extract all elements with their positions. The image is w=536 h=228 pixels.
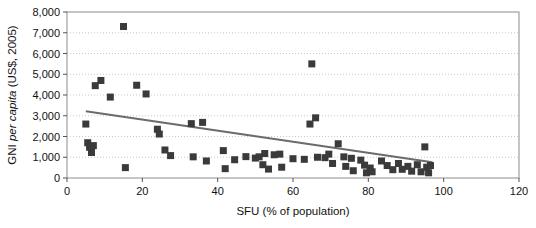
data-point xyxy=(156,131,163,138)
y-axis-ticks xyxy=(63,12,67,178)
data-point xyxy=(308,60,315,67)
x-axis-ticks xyxy=(67,178,519,182)
data-point xyxy=(133,82,140,89)
data-point xyxy=(88,149,95,156)
x-tick-label: 0 xyxy=(64,185,70,197)
y-tick-label: 1,000 xyxy=(32,151,60,163)
data-point xyxy=(312,114,319,121)
data-point xyxy=(122,164,129,171)
data-point xyxy=(220,147,227,154)
data-point xyxy=(414,161,421,168)
data-point xyxy=(199,119,206,126)
data-point xyxy=(90,142,97,149)
x-tick-label: 100 xyxy=(434,185,452,197)
data-point xyxy=(421,143,428,150)
scatter-chart-figure: 01,0002,0003,0004,0005,0006,0007,0008,00… xyxy=(0,0,536,228)
data-point xyxy=(222,165,229,172)
data-point xyxy=(82,121,89,128)
chart-canvas: 01,0002,0003,0004,0005,0006,0007,0008,00… xyxy=(0,0,536,228)
y-tick-label: 3,000 xyxy=(32,110,60,122)
data-point xyxy=(335,140,342,147)
data-point xyxy=(306,121,313,128)
data-point xyxy=(261,150,268,157)
y-tick-label: 6,000 xyxy=(32,48,60,60)
x-tick-label: 120 xyxy=(510,185,528,197)
data-point xyxy=(107,94,114,101)
data-point xyxy=(389,166,396,173)
data-point xyxy=(97,77,104,84)
x-tick-label: 20 xyxy=(136,185,148,197)
data-point xyxy=(278,164,285,171)
data-point xyxy=(276,151,283,158)
y-tick-label: 2,000 xyxy=(32,131,60,143)
data-point xyxy=(143,90,150,97)
data-point xyxy=(190,153,197,160)
data-point xyxy=(203,157,210,164)
data-point xyxy=(342,163,349,170)
y-tick-label: 5,000 xyxy=(32,68,60,80)
svg-text:GNI per capita (US$, 2005): GNI per capita (US$, 2005) xyxy=(6,25,18,165)
data-point xyxy=(120,23,127,30)
data-point xyxy=(265,166,272,173)
x-tick-label: 40 xyxy=(212,185,224,197)
x-tick-label: 80 xyxy=(362,185,374,197)
data-point xyxy=(167,152,174,159)
y-axis-tick-labels: 01,0002,0003,0004,0005,0006,0007,0008,00… xyxy=(32,6,60,184)
x-axis-title: SFU (% of population) xyxy=(236,205,349,217)
data-point xyxy=(329,160,336,167)
y-tick-label: 0 xyxy=(54,172,60,184)
y-tick-label: 4,000 xyxy=(32,89,60,101)
x-axis-tick-labels: 020406080100120 xyxy=(64,185,528,197)
y-tick-label: 7,000 xyxy=(32,27,60,39)
data-point xyxy=(301,156,308,163)
svg-text:SFU (% of population): SFU (% of population) xyxy=(236,205,349,217)
data-point xyxy=(290,155,297,162)
data-point xyxy=(340,153,347,160)
data-point xyxy=(425,169,432,176)
data-point xyxy=(408,168,415,175)
y-axis-title: GNI per capita (US$, 2005) xyxy=(6,25,18,165)
data-point xyxy=(314,154,321,161)
data-point xyxy=(242,153,249,160)
data-point xyxy=(188,120,195,127)
y-tick-label: 8,000 xyxy=(32,6,60,18)
data-point xyxy=(231,156,238,163)
data-point xyxy=(325,151,332,158)
data-point xyxy=(369,168,376,175)
x-tick-label: 60 xyxy=(287,185,299,197)
data-point xyxy=(427,162,434,169)
data-point xyxy=(348,155,355,162)
data-point xyxy=(350,167,357,174)
